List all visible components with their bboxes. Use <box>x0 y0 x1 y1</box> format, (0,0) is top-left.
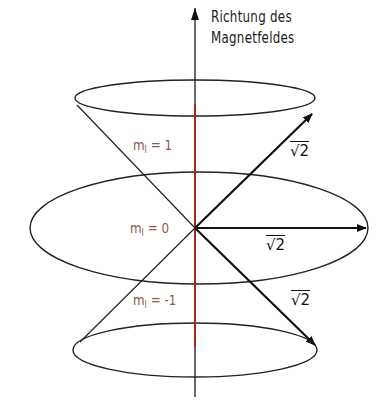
vector-label-middle: √2 <box>266 235 285 254</box>
cone-line-lower-left <box>80 228 195 342</box>
level-label-plus1: ml = 1 <box>133 137 172 155</box>
cone-diagram <box>0 0 389 413</box>
vector-label-lower: √2 <box>291 290 310 309</box>
level-label-minus1: ml = -1 <box>133 292 176 310</box>
magnetic-quantum-number-diagram: Richtung des Magnetfeldes ml = 1 ml = 0 … <box>0 0 389 413</box>
cone-line-upper-left <box>77 105 195 228</box>
vector-upper <box>195 114 312 228</box>
axis-label-line2: Magnetfeldes <box>211 28 295 48</box>
level-label-0: ml = 0 <box>130 220 169 238</box>
vector-label-upper: √2 <box>290 141 309 160</box>
axis-label-line1: Richtung des <box>211 7 292 27</box>
vector-lower <box>195 228 315 345</box>
